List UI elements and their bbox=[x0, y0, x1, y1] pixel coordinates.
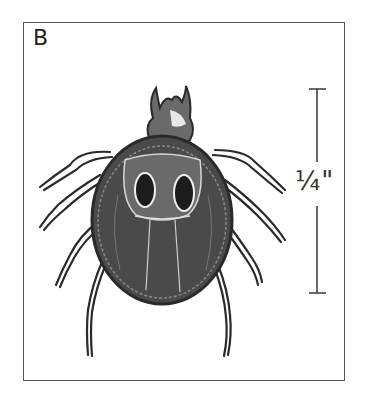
scale-label: ¼" bbox=[295, 168, 334, 194]
left-marking bbox=[135, 173, 155, 207]
right-marking bbox=[174, 175, 194, 211]
tick-body bbox=[92, 136, 232, 304]
tick-illustration bbox=[0, 0, 365, 394]
